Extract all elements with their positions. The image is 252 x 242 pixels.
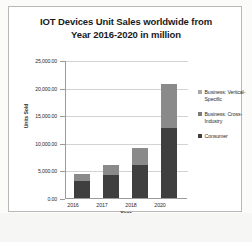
chart-title-line-1: IOT Devices Unit Sales worldwide from xyxy=(23,16,229,29)
legend-label-business-cross-industry: Business: Cross-Industry xyxy=(205,111,243,124)
legend-item-business-vertical-specific[interactable]: Business: Vertical-Specific xyxy=(198,89,248,102)
legend-swatch-icon-consumer xyxy=(198,134,202,138)
bar-2017[interactable] xyxy=(103,165,119,198)
chart-title: IOT Devices Unit Sales worldwide from Ye… xyxy=(23,16,229,41)
bar-2017-segment-cross-industry xyxy=(103,165,119,174)
x-tick-label-2020: 2020 xyxy=(143,202,177,208)
legend-swatch-icon-business-vertical-specific xyxy=(198,90,202,94)
legend-swatch-icon-business-cross-industry xyxy=(198,112,202,116)
legend-label-consumer: Consumer xyxy=(205,133,228,139)
page-margin-area xyxy=(0,213,252,242)
plot-area xyxy=(65,61,187,199)
scanned-page: IOT Devices Unit Sales worldwide from Ye… xyxy=(0,0,252,242)
chart-title-line-2: Year 2016-2020 in million xyxy=(23,29,229,42)
y-tick-label-5000: 5,000.00 xyxy=(13,168,57,174)
bar-2017-segment-consumer xyxy=(103,175,119,198)
y-tick-label-25000: 25,000.00 xyxy=(13,58,57,64)
y-tick-label-0: 0.00 xyxy=(13,196,57,202)
legend-item-business-cross-industry[interactable]: Business: Cross-Industry xyxy=(198,111,248,124)
chart-legend: Business: Vertical-Specific Business: Cr… xyxy=(198,89,248,149)
y-tick-mark-0 xyxy=(60,199,65,200)
bar-2020-segment-cross-industry xyxy=(161,84,177,128)
bar-2018-segment-cross-industry xyxy=(132,148,148,165)
gridline-25000 xyxy=(66,61,188,62)
bar-2020[interactable] xyxy=(161,84,177,198)
y-tick-label-20000: 20,000.00 xyxy=(13,86,57,92)
bar-2018-segment-consumer xyxy=(132,165,148,198)
legend-label-business-vertical-specific: Business: Vertical-Specific xyxy=(205,89,246,102)
bar-2018[interactable] xyxy=(132,148,148,198)
bar-2020-segment-consumer xyxy=(161,128,177,198)
chart-paper: IOT Devices Unit Sales worldwide from Ye… xyxy=(8,6,242,212)
y-tick-label-15000: 15,000.00 xyxy=(13,113,57,119)
bar-2016-segment-consumer xyxy=(74,181,90,198)
bar-2016[interactable] xyxy=(74,174,90,198)
legend-item-consumer[interactable]: Consumer xyxy=(198,133,248,140)
y-tick-label-10000: 10,000.00 xyxy=(13,141,57,147)
bar-2016-segment-cross-industry xyxy=(74,174,90,181)
